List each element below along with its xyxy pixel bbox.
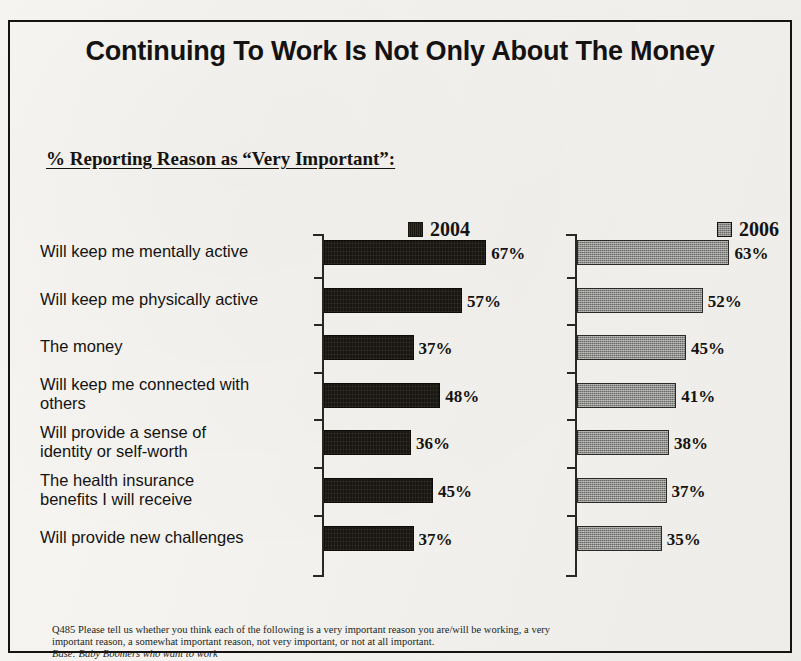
category-label-line: Will keep me connected with	[40, 375, 312, 394]
bar-2006	[577, 240, 729, 265]
axis-tick	[567, 515, 576, 517]
bar-2004	[324, 478, 433, 503]
bar-2004	[324, 240, 486, 265]
bar-2004	[324, 288, 462, 313]
bar-2006	[577, 335, 686, 360]
bar-value-label: 67%	[491, 244, 525, 264]
axis-tick	[567, 467, 576, 469]
axis-end-tick	[313, 234, 324, 236]
bar-value-label: 36%	[416, 434, 450, 454]
bar-2006	[577, 288, 703, 313]
axis-tick	[314, 419, 323, 421]
category-label-line: Will keep me mentally active	[40, 242, 312, 261]
category-label-line: identity or self-worth	[40, 442, 312, 461]
category-label: Will keep me connected withothers	[40, 375, 312, 413]
bar-value-label: 45%	[438, 482, 472, 502]
bar-value-label: 37%	[419, 530, 453, 550]
chart-plot-area: Will keep me mentally activeWill keep me…	[10, 22, 794, 655]
bar-2006	[577, 383, 676, 408]
bar-value-label: 41%	[681, 387, 715, 407]
bar-2004	[324, 430, 411, 455]
bar-2004	[324, 526, 414, 551]
axis-end-tick	[566, 575, 577, 577]
category-label-line: others	[40, 394, 312, 413]
footnote: Q485 Please tell us whether you think ea…	[52, 624, 572, 660]
axis-end-tick	[313, 575, 324, 577]
category-label-line: Will provide new challenges	[40, 528, 312, 547]
bar-value-label: 63%	[734, 244, 768, 264]
bar-2006	[577, 430, 669, 455]
axis-tick	[314, 372, 323, 374]
category-label-line: Will provide a sense of	[40, 423, 312, 442]
bar-2004	[324, 383, 440, 408]
bar-value-label: 57%	[467, 292, 501, 312]
category-label: The health insurancebenefits I will rece…	[40, 471, 312, 509]
axis-tick	[314, 467, 323, 469]
bar-2006	[577, 526, 662, 551]
bar-value-label: 48%	[445, 387, 479, 407]
category-label: Will keep me mentally active	[40, 242, 312, 261]
footnote-question: Q485 Please tell us whether you think ea…	[52, 624, 572, 647]
bar-value-label: 35%	[667, 530, 701, 550]
axis-tick	[567, 372, 576, 374]
bar-value-label: 37%	[419, 339, 453, 359]
slide-page: Continuing To Work Is Not Only About The…	[0, 0, 801, 661]
bar-2004	[324, 335, 414, 360]
bar-2006	[577, 478, 667, 503]
category-label-line: Will keep me physically active	[40, 290, 312, 309]
category-label-line: benefits I will receive	[40, 490, 312, 509]
axis-tick	[314, 324, 323, 326]
axis-end-tick	[566, 234, 577, 236]
axis-tick	[567, 277, 576, 279]
axis-tick	[314, 515, 323, 517]
axis-tick	[314, 277, 323, 279]
bar-value-label: 52%	[708, 292, 742, 312]
bar-value-label: 45%	[691, 339, 725, 359]
category-label: The money	[40, 337, 312, 356]
category-label-line: The money	[40, 337, 312, 356]
bar-value-label: 38%	[674, 434, 708, 454]
axis-tick	[567, 419, 576, 421]
category-label: Will keep me physically active	[40, 290, 312, 309]
category-label: Will provide new challenges	[40, 528, 312, 547]
footnote-base: Base: Baby Boomers who want to work	[52, 648, 572, 660]
category-label-line: The health insurance	[40, 471, 312, 490]
axis-tick	[567, 324, 576, 326]
slide-frame: Continuing To Work Is Not Only About The…	[8, 20, 792, 653]
bar-value-label: 37%	[672, 482, 706, 502]
category-label: Will provide a sense ofidentity or self-…	[40, 423, 312, 461]
